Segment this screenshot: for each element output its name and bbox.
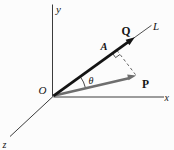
z-axis-label: z [2, 139, 7, 150]
vector-q-label: Q [122, 25, 131, 37]
z-axis-line [10, 96, 54, 137]
vector-projection-figure: y x z O L A Q P θ [0, 0, 174, 150]
perpendicular-dashed-line [117, 50, 136, 74]
y-axis-label: y [55, 3, 61, 15]
origin-label: O [39, 84, 47, 96]
vector-p-arrowhead-icon [127, 75, 136, 81]
x-axis-label: x [164, 92, 170, 103]
line-l-label: L [152, 20, 159, 32]
theta-angle-arc [80, 76, 86, 88]
point-a-label: A [99, 41, 107, 52]
theta-angle-label: θ [89, 75, 94, 86]
vector-p-label: P [142, 78, 149, 90]
